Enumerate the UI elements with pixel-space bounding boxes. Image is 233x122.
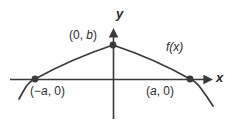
root-negative-label-variable: a — [41, 84, 48, 98]
vertex-label-suffix: ) — [93, 28, 97, 42]
vertex-label-prefix: (0, — [69, 28, 86, 42]
point-label-vertex: (0, b) — [69, 29, 97, 41]
y-axis-label: y — [116, 7, 123, 20]
point-label-root-negative: (−a, 0) — [30, 85, 65, 97]
point-dot-root-positive — [187, 76, 194, 83]
function-label: f(x) — [166, 41, 183, 53]
parabola-figure: y x (0, b) (−a, 0) (a, 0) f(x) — [0, 0, 233, 122]
point-dot-vertex — [110, 42, 117, 49]
root-positive-label-variable: a — [150, 84, 157, 98]
root-negative-label-suffix: , 0) — [48, 84, 65, 98]
x-axis-label: x — [216, 71, 223, 84]
point-label-root-positive: (a, 0) — [146, 85, 174, 97]
root-negative-label-prefix: (− — [30, 84, 41, 98]
point-dot-root-negative — [32, 76, 39, 83]
root-positive-label-suffix: , 0) — [157, 84, 174, 98]
